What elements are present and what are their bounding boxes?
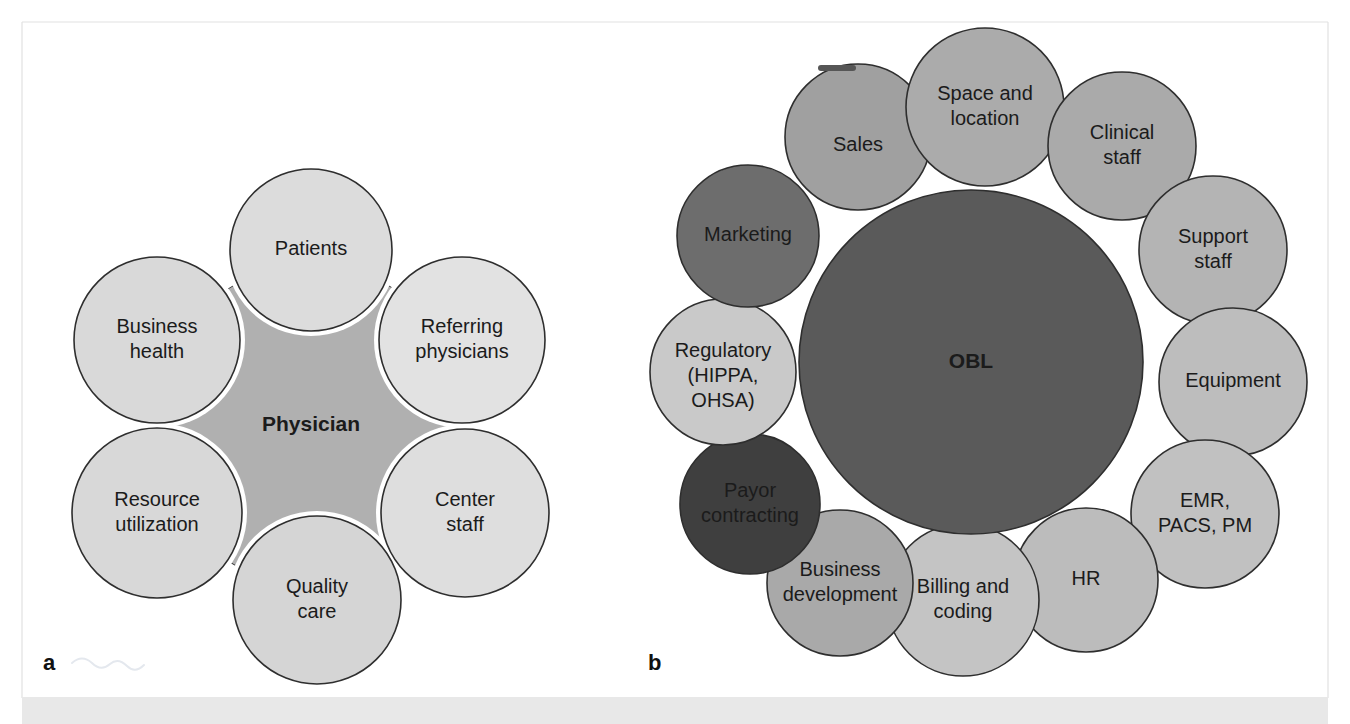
bubble-center-staff-label-line1: Center [435, 488, 495, 510]
bubble-resource-utilization[interactable]: Resource utilization [72, 428, 242, 598]
bubble-business-development-label-line2: development [783, 583, 898, 605]
bubble-quality-care-label-line1: Quality [286, 575, 348, 597]
bubble-regulatory-label-line3: OHSA) [691, 389, 754, 411]
bubble-resource-utilization-label-line1: Resource [114, 488, 200, 510]
bubble-referring-physicians[interactable]: Referring physicians [379, 257, 545, 423]
bubble-support-staff[interactable]: Support staff [1139, 176, 1287, 324]
bubble-patients-label: Patients [275, 237, 347, 259]
bubble-patients[interactable]: Patients [230, 169, 392, 331]
bubble-business-health-label-line1: Business [116, 315, 197, 337]
bubble-regulatory-label-line2: (HIPPA, [688, 364, 759, 386]
bubble-business-health-label-line2: health [130, 340, 185, 362]
bubble-regulatory[interactable]: Regulatory (HIPPA, OHSA) [650, 299, 796, 445]
bubble-emr-pacs-pm-label-line2: PACS, PM [1158, 514, 1252, 536]
bubble-payor-contracting-label-line2: contracting [701, 504, 799, 526]
bubble-marketing[interactable]: Marketing [677, 165, 819, 307]
bubble-equipment-label: Equipment [1185, 369, 1281, 391]
bubble-payor-contracting[interactable]: Payor contracting [680, 434, 820, 574]
bubble-space-and-location-label-line1: Space and [937, 82, 1033, 104]
bubble-quality-care-label-line2: care [298, 600, 337, 622]
scan-artifact-smudge-sales [818, 65, 856, 71]
diagram-canvas: Physician Patients Referring physicians … [0, 0, 1350, 724]
bubble-billing-and-coding-label-line2: coding [934, 600, 993, 622]
figure-root: Physician Patients Referring physicians … [0, 0, 1350, 724]
bubble-referring-physicians-label-line2: physicians [415, 340, 508, 362]
bubble-clinical-staff-label-line2: staff [1103, 146, 1141, 168]
bubble-equipment[interactable]: Equipment [1159, 308, 1307, 456]
bubble-business-health[interactable]: Business health [74, 257, 240, 423]
bubble-center-staff[interactable]: Center staff [381, 429, 549, 597]
caption-band [22, 697, 1328, 724]
panel-a-hub-label: Physician [262, 412, 360, 435]
bubble-payor-contracting-label-line1: Payor [724, 479, 777, 501]
bubble-space-and-location[interactable]: Space and location [906, 28, 1064, 186]
bubble-clinical-staff-label-line1: Clinical [1090, 121, 1154, 143]
bubble-marketing-label: Marketing [704, 223, 792, 245]
panel-a-letter: a [43, 650, 56, 675]
bubble-center-staff-label-line2: staff [446, 513, 484, 535]
bubble-referring-physicians-label-line1: Referring [421, 315, 503, 337]
bubble-sales-label: Sales [833, 133, 883, 155]
bubble-hr-label: HR [1072, 567, 1101, 589]
bubble-billing-and-coding-label-line1: Billing and [917, 575, 1009, 597]
panel-b-letter: b [648, 650, 661, 675]
bubble-emr-pacs-pm-label-line1: EMR, [1180, 489, 1230, 511]
bubble-support-staff-label-line2: staff [1194, 250, 1232, 272]
bubble-quality-care[interactable]: Quality care [233, 516, 401, 684]
panel-b-hub-label: OBL [949, 349, 994, 372]
bubble-space-and-location-label-line2: location [951, 107, 1020, 129]
bubble-resource-utilization-label-line2: utilization [115, 513, 198, 535]
bubble-regulatory-label-line1: Regulatory [675, 339, 772, 361]
bubble-business-development-label-line1: Business [799, 558, 880, 580]
bubble-support-staff-label-line1: Support [1178, 225, 1248, 247]
